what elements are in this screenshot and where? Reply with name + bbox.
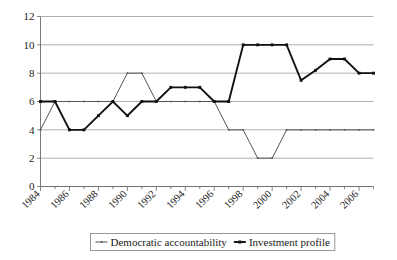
data-point-marker [256, 43, 259, 46]
data-point-marker [199, 101, 201, 103]
data-point-marker [126, 114, 129, 117]
y-tick-label-2: 2 [29, 152, 35, 164]
x-tick-label-1986: 1986 [48, 188, 71, 211]
x-tick-label-2000: 2000 [251, 188, 274, 211]
data-point-marker [98, 101, 100, 103]
data-point-marker [242, 129, 244, 131]
x-tick-label-2004: 2004 [309, 188, 332, 211]
data-point-marker [97, 114, 100, 117]
data-point-marker [315, 129, 317, 131]
x-tick-label-1998: 1998 [222, 188, 245, 211]
data-point-marker [271, 157, 273, 159]
data-point-marker [54, 100, 57, 103]
data-point-marker [82, 128, 85, 131]
data-point-marker [271, 43, 274, 46]
x-tick-label-1984: 1984 [19, 188, 42, 211]
legend-label-investment-profile: Investment profile [249, 236, 330, 248]
data-point-marker [40, 129, 42, 131]
data-point-marker [242, 43, 245, 46]
legend-marker-dot [238, 241, 241, 244]
data-point-marker [372, 72, 375, 75]
data-point-marker [184, 101, 186, 103]
legend-label-democratic-accountability: Democratic accountability [111, 236, 228, 248]
data-point-marker [155, 100, 158, 103]
data-point-marker [170, 101, 172, 103]
y-tick-label-8: 8 [29, 67, 35, 79]
data-point-marker [69, 101, 71, 103]
data-point-marker [285, 43, 288, 46]
x-tick-label-2002: 2002 [280, 188, 303, 211]
data-point-marker [141, 72, 143, 74]
data-point-marker [111, 100, 114, 103]
data-point-marker [373, 129, 375, 131]
y-tick-label-6: 6 [29, 95, 35, 107]
series-line-0 [41, 73, 374, 158]
data-point-marker [83, 101, 85, 103]
x-tick-label-1996: 1996 [193, 188, 216, 211]
y-tick-label-4: 4 [29, 124, 35, 136]
data-point-marker [68, 128, 71, 131]
data-point-marker [198, 86, 201, 89]
legend-marker-dot [101, 241, 103, 243]
data-point-marker [228, 129, 230, 131]
series-line-1 [41, 45, 374, 130]
x-tick-label-1988: 1988 [77, 188, 100, 211]
x-tick-label-1992: 1992 [135, 188, 158, 211]
data-point-marker [329, 58, 332, 61]
data-point-marker [300, 79, 303, 82]
y-tick-labels: 024681012 [24, 10, 36, 192]
data-point-marker [127, 72, 129, 74]
data-point-marker [184, 86, 187, 89]
x-tick-labels: 1984198619881990199219941996199820002002… [19, 188, 360, 211]
x-tick-label-2006: 2006 [338, 188, 361, 211]
data-point-marker [358, 129, 360, 131]
data-point-marker [314, 69, 317, 72]
y-tick-label-12: 12 [24, 10, 35, 22]
data-point-marker [257, 157, 259, 159]
y-tick-label-10: 10 [24, 39, 36, 51]
chart-legend: Democratic accountabilityInvestment prof… [91, 234, 335, 251]
data-point-marker [227, 100, 230, 103]
data-point-marker [329, 129, 331, 131]
data-point-marker [213, 100, 216, 103]
data-point-marker [343, 58, 346, 61]
series-democratic-accountability [40, 72, 375, 159]
data-point-marker [286, 129, 288, 131]
data-point-marker [169, 86, 172, 89]
series-investment-profile [39, 43, 375, 131]
data-point-marker [140, 100, 143, 103]
data-point-marker [358, 72, 361, 75]
data-point-marker [39, 100, 42, 103]
chart-canvas: 024681012 198419861988199019921994199619… [0, 0, 397, 260]
line-chart: 024681012 198419861988199019921994199619… [0, 0, 397, 260]
data-point-marker [300, 129, 302, 131]
x-tick-label-1994: 1994 [164, 188, 187, 211]
x-tick-label-1990: 1990 [106, 188, 129, 211]
data-point-marker [344, 129, 346, 131]
